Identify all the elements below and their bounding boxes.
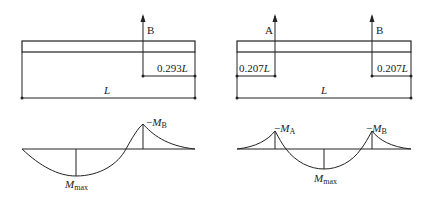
moment-curve	[22, 124, 195, 176]
arrowhead-icon	[141, 14, 146, 22]
span-label: L	[320, 84, 327, 96]
left-beam	[22, 41, 195, 52]
left-beam-diagram: B 0.293L L −MB Mmax	[21, 14, 197, 192]
dimension-tick-icon	[410, 75, 413, 78]
dimension-tick-icon	[274, 75, 277, 78]
support-a-label: A	[265, 24, 273, 36]
support-b-label: B	[376, 24, 383, 36]
offset-left-label: 0.207L	[239, 62, 270, 74]
moment-max-label: Mmax	[64, 178, 88, 192]
arrowhead-icon	[370, 14, 375, 22]
dimension-tick-icon	[142, 75, 145, 78]
dimension-tick-icon	[236, 75, 239, 78]
dimension-tick-icon	[236, 97, 239, 100]
dimension-tick-icon	[21, 97, 24, 100]
dimension-tick-icon	[194, 97, 197, 100]
moment-b-label: −MB	[366, 122, 387, 136]
support-b-label: B	[147, 24, 154, 36]
dimension-tick-icon	[410, 97, 413, 100]
moment-a-label: −MA	[274, 122, 295, 136]
dimension-tick-icon	[194, 75, 197, 78]
moment-b-label: −MB	[146, 116, 167, 130]
span-label: L	[103, 84, 110, 96]
right-beam	[237, 41, 411, 52]
beam-diagrams: B 0.293L L −MB Mmax A	[0, 0, 429, 199]
dimension-tick-icon	[371, 75, 374, 78]
offset-right-label: 0.207L	[377, 62, 408, 74]
arrowhead-icon	[273, 14, 278, 22]
moment-max-label: Mmax	[313, 172, 337, 186]
right-beam-diagram: A B 0.207L 0.207L L −M	[236, 14, 413, 186]
offset-label: 0.293L	[157, 62, 188, 74]
